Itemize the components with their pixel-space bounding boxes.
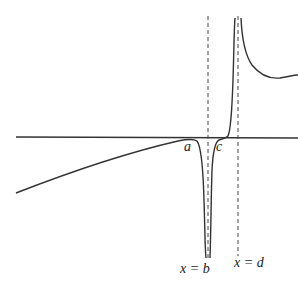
- curve-left-branch: [16, 140, 206, 259]
- label-a: a: [184, 139, 191, 154]
- label-c: c: [216, 139, 223, 154]
- function-graph: a c x = b x = d: [0, 0, 298, 294]
- x-axis: [16, 137, 298, 138]
- label-asymptote-b: x = b: [179, 261, 210, 276]
- label-asymptote-d: x = d: [233, 255, 265, 270]
- curve-right-branch: [241, 18, 298, 78]
